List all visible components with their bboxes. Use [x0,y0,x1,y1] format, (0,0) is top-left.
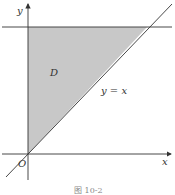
figure-caption: 图 10-2 [74,186,103,195]
x-axis-label: x [162,156,168,167]
line-label: y = x [100,85,127,96]
diagram-canvas: y x O D y = x 图 10-2 [0,0,175,195]
region-label: D [49,67,58,78]
origin-label: O [18,158,26,169]
y-axis-label: y [16,5,23,16]
